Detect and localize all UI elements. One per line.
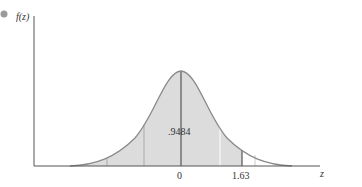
tick-label-163: 1.63 bbox=[232, 170, 250, 181]
bullet-icon bbox=[1, 11, 8, 18]
y-axis-label: f(z) bbox=[16, 11, 29, 22]
x-axis-label: z bbox=[320, 168, 324, 179]
tick-label-zero: 0 bbox=[177, 170, 182, 181]
normal-curve-plot bbox=[0, 0, 362, 187]
area-annotation: .9484 bbox=[168, 126, 191, 137]
shaded-area bbox=[70, 71, 242, 166]
